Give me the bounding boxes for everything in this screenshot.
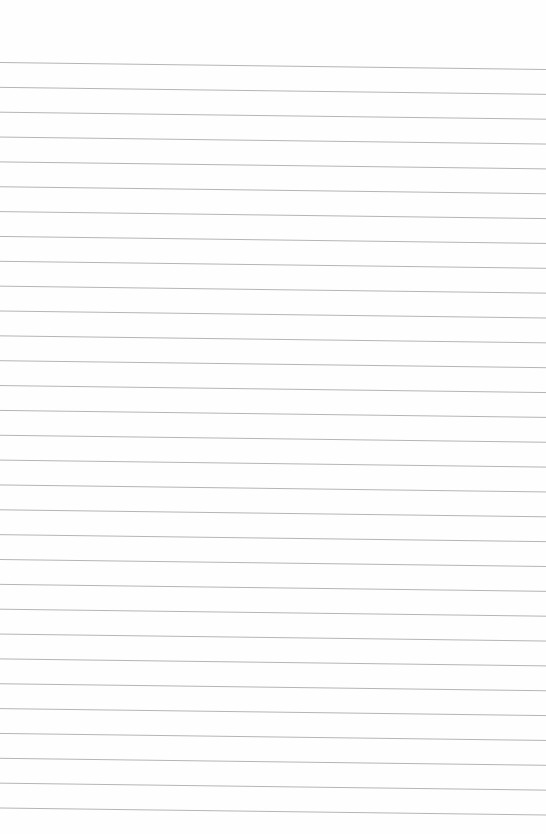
ruled-line [0, 783, 546, 790]
ruled-line [0, 510, 546, 517]
ruled-line [0, 236, 546, 243]
ruled-line [0, 535, 546, 542]
ruled-line [0, 733, 546, 740]
ruled-line [0, 63, 546, 70]
ruled-line [0, 684, 546, 691]
ruled-line [0, 560, 546, 567]
ruled-line [0, 609, 546, 616]
ruled-paper-page [0, 0, 546, 834]
ruled-line [0, 261, 546, 268]
ruled-line [0, 584, 546, 591]
ruled-line [0, 212, 546, 219]
ruled-line [0, 87, 546, 94]
ruled-line [0, 634, 546, 641]
ruled-line [0, 162, 546, 169]
ruled-line [0, 410, 546, 417]
ruled-line [0, 311, 546, 318]
ruled-line [0, 758, 546, 765]
ruled-line [0, 286, 546, 293]
ruled-line [0, 187, 546, 194]
ruled-line [0, 460, 546, 467]
ruled-line [0, 485, 546, 492]
ruled-line [0, 709, 546, 716]
ruled-line [0, 112, 546, 119]
ruled-lines [0, 0, 546, 834]
ruled-line [0, 137, 546, 144]
ruled-line [0, 435, 546, 442]
ruled-line [0, 386, 546, 393]
ruled-line [0, 336, 546, 343]
ruled-line [0, 808, 546, 815]
ruled-line [0, 361, 546, 368]
ruled-line [0, 659, 546, 666]
